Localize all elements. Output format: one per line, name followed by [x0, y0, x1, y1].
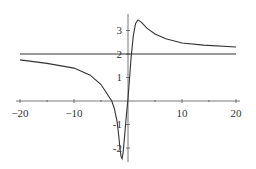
chart: −20 −10 10 20 3 2 1 -1 -2	[0, 0, 256, 169]
x-tick-label: −20	[11, 107, 29, 119]
x-tick-label: −10	[65, 107, 83, 119]
x-tick-label: 10	[177, 107, 189, 119]
x-tick-label: 20	[231, 107, 243, 119]
y-tick-label: 1	[117, 71, 123, 83]
y-tick-label: 3	[117, 24, 123, 36]
